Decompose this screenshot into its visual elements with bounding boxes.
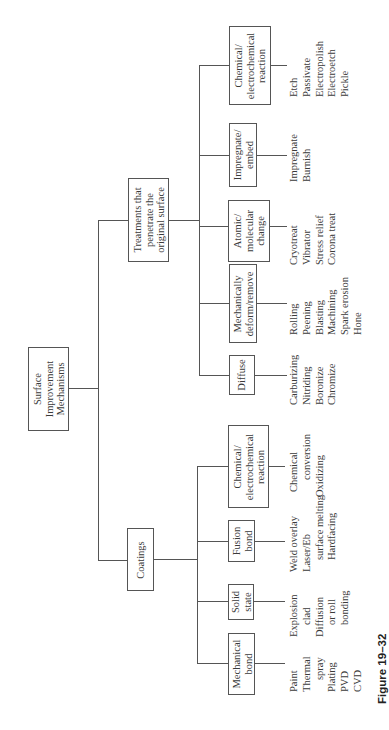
treatments-node-box: Treatments that penetrate the original s… [128, 178, 169, 262]
root-connector [69, 388, 98, 389]
treat-diffuse-leaves: Carburizing Nitriding Boronize Chromize [288, 355, 339, 405]
coat-chemical-label: Chemical/ electrochemical reaction [231, 433, 266, 499]
coat-mechanical-stub [197, 663, 228, 664]
coat-chemical-leaf-oxidizing: Oxidizing [314, 455, 327, 497]
coat-chemical-box: Chemical/ electrochemical reaction [228, 425, 269, 508]
coat-chem-stub [197, 466, 228, 467]
coatings-spine [197, 466, 198, 664]
coat-solid-leaves: Explosion clad Diffusion or roll bonding [288, 591, 352, 637]
coat-chemical-leaf-connector [269, 466, 285, 467]
coat-fusion-leaf-connector [255, 541, 285, 542]
treat-mech-stub [199, 303, 229, 304]
treat-mechanical-leaf-connector [257, 303, 287, 304]
coat-solid-box: Solid state [228, 584, 254, 620]
coat-solid-stub [197, 601, 228, 602]
coat-chemical-leaves: Chemical conversion [288, 434, 314, 492]
coat-mechanical-label: Mechanical bond [230, 640, 253, 689]
coat-mechanical-leaves: Paint Thermal spray Plating PVD CVD [288, 656, 365, 692]
treat-chem-stub [199, 65, 229, 66]
treat-impregnate-box: Impregnate/ embed [229, 123, 257, 187]
figure-caption: Figure 19–32 [376, 634, 388, 704]
coatings-node-label: Coatings [135, 541, 147, 578]
coat-fusion-label: Fusion bond [230, 527, 253, 556]
coat-fusion-box: Fusion bond [228, 520, 255, 562]
coatings-connector [154, 559, 197, 560]
treat-atomic-leaves: Cryotreat Vibrator Stress relief Corona … [288, 213, 339, 265]
treat-impregnate-stub [199, 155, 229, 156]
coat-solid-leaf-connector [254, 601, 285, 602]
treat-impregnate-leaves: Impregnate Burnish [288, 134, 314, 182]
treatments-node-label: Treatments that penetrate the original s… [131, 187, 166, 253]
surface-improvement-diagram: Surface Improvement Mechanisms Treatment… [0, 0, 389, 730]
root-spine [98, 220, 99, 561]
root-node-box: Surface Improvement Mechanisms [28, 347, 69, 431]
treat-diffuse-box: Diffuse [229, 355, 255, 395]
treatments-connector [169, 220, 199, 221]
treatments-spine [199, 65, 200, 376]
treat-diffuse-stub [199, 375, 229, 376]
treat-atomic-box: Atomic/ molecular change [228, 200, 270, 262]
treat-chemical-box: Chemical/ electrochemical reaction [229, 26, 271, 105]
treatments-stub [98, 220, 128, 221]
coat-fusion-leaves: Weld overlay Laser/Eb surface melting Ha… [288, 495, 339, 572]
treat-atomic-stub [199, 226, 228, 227]
treat-atomic-leaf-connector [270, 226, 287, 227]
treat-mechanical-box: Mechanically deform/remove [229, 264, 257, 343]
coat-solid-label: Solid state [230, 591, 253, 613]
treat-chemical-leaf-connector [271, 65, 287, 66]
treat-atomic-label: Atomic/ molecular change [232, 210, 267, 252]
treat-mechanical-leaves: Rolling Peening Blasting Machining Spark… [288, 277, 365, 335]
treat-chemical-label: Chemical/ electrochemical reaction [233, 32, 268, 98]
coat-mechanical-box: Mechanical bond [228, 633, 255, 695]
treat-chemical-leaves: Etch Passivate Electropolish Electroetch… [288, 41, 352, 97]
coat-fusion-stub [197, 541, 228, 542]
treat-diffuse-label: Diffuse [236, 359, 248, 390]
treat-diffuse-leaf-connector [255, 375, 287, 376]
treat-mechanical-label: Mechanically deform/remove [232, 271, 255, 336]
coatings-stub [98, 560, 127, 561]
treat-impregnate-label: Impregnate/ embed [232, 130, 255, 181]
coatings-node-box: Coatings [127, 528, 154, 591]
root-node-label: Surface Improvement Mechanisms [31, 361, 66, 418]
coat-mechanical-leaf-connector [255, 663, 285, 664]
treat-impregnate-leaf-connector [257, 155, 287, 156]
